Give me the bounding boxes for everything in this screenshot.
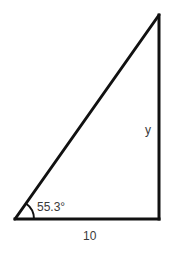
adjacent-side-label: 10 <box>83 230 96 242</box>
hypotenuse-line <box>15 15 159 219</box>
opposite-side-label: y <box>145 124 151 136</box>
angle-arc <box>26 204 34 220</box>
angle-label: 55.3° <box>37 201 65 213</box>
